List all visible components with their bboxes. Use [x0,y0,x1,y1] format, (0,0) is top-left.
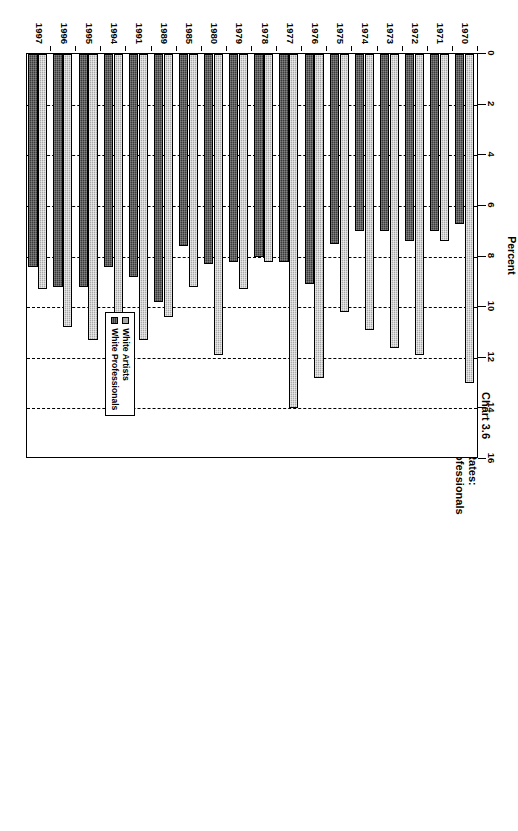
value-axis-tick [478,104,486,105]
bar-white-professionals [279,54,288,262]
value-axis-tick-label: 14 [486,402,497,413]
bar-white-professionals [28,54,37,267]
category-axis-label: 1997 [33,23,44,44]
value-axis: 0246810121416 [478,53,494,458]
bar-series-layer [27,54,477,457]
legend-label: White Professionals [109,328,120,410]
bar-white-professionals [204,54,213,264]
bar-white-artists [214,54,223,355]
bar-white-professionals [305,54,314,284]
bar-white-artists [289,54,298,408]
value-axis-tick [478,154,486,155]
bar-white-artists [164,54,173,317]
category-axis-tick [452,46,453,51]
value-axis-tick-label: 0 [486,50,497,55]
category-axis-tick [326,46,327,51]
category-axis: 1970197119721973197419751976197719781979… [26,0,478,51]
bar-white-artists [314,54,323,378]
category-axis-label: 1975 [334,23,345,44]
bar-white-artists [88,54,97,340]
value-axis-tick [478,306,486,307]
bar-white-professionals [129,54,138,277]
category-axis-label: 1996 [58,23,69,44]
bar-white-professionals [355,54,364,231]
legend-label: White Artists [120,328,131,381]
category-axis-tick [100,46,101,51]
legend-swatch-icon [122,317,129,324]
category-axis-label: 1977 [284,23,295,44]
chart-page: Percent Chart 3.6 Multiple Jobholding Ra… [0,0,518,831]
value-axis-tick [478,53,486,54]
category-axis-tick [201,46,202,51]
category-axis-tick [377,46,378,51]
category-axis-label: 1970 [460,23,471,44]
bar-white-artists [365,54,374,330]
category-axis-label: 1978 [259,23,270,44]
legend-item: White Professionals [109,317,120,410]
category-axis-tick [176,46,177,51]
category-axis-label: 1973 [385,23,396,44]
category-axis-label: 1972 [410,23,421,44]
value-axis-tick [478,407,486,408]
value-axis-tick [478,357,486,358]
bar-white-professionals [79,54,88,287]
value-axis-tick-label: 12 [486,351,497,362]
bar-white-professionals [229,54,238,262]
bar-white-artists [415,54,424,355]
bar-white-professionals [330,54,339,244]
bar-white-professionals [254,54,263,257]
bar-white-artists [189,54,198,287]
bar-white-professionals [154,54,163,302]
bar-white-professionals [455,54,464,224]
bar-white-professionals [53,54,62,287]
category-axis-tick [351,46,352,51]
value-axis-tick-label: 4 [486,152,497,157]
bar-white-artists [440,54,449,241]
category-axis-label: 1979 [234,23,245,44]
value-axis-tick [478,458,486,459]
category-axis-label: 1985 [184,23,195,44]
category-axis-label: 1991 [134,23,145,44]
category-axis-label: 1976 [309,23,320,44]
bar-white-artists [340,54,349,312]
bar-white-artists [38,54,47,289]
value-axis-tick-label: 6 [486,202,497,207]
category-axis-tick [75,46,76,51]
category-axis-label: 1974 [360,23,371,44]
bar-white-artists [114,54,123,317]
value-axis-tick [478,205,486,206]
bar-white-artists [264,54,273,262]
category-axis-tick [477,46,478,51]
category-axis-tick [125,46,126,51]
bar-white-artists [139,54,148,340]
category-axis-label: 1989 [159,23,170,44]
category-axis-tick [251,46,252,51]
bar-white-artists [465,54,474,383]
value-axis-tick-label: 10 [486,301,497,312]
bar-white-professionals [380,54,389,231]
bar-white-artists [63,54,72,327]
legend-item: White Artists [120,317,131,410]
chart-figure: Percent Chart 3.6 Multiple Jobholding Ra… [0,0,518,831]
category-axis-tick [301,46,302,51]
category-axis-label: 1980 [209,23,220,44]
category-axis-tick [276,46,277,51]
category-axis-tick [151,46,152,51]
chart-legend: White ArtistsWhite Professionals [105,312,135,416]
bar-white-professionals [405,54,414,241]
bar-white-professionals [179,54,188,246]
category-axis-tick [226,46,227,51]
value-axis-title: Percent [506,53,518,458]
category-axis-label: 1994 [108,23,119,44]
plot-area: White ArtistsWhite Professionals [26,53,478,458]
legend-swatch-icon [111,317,118,324]
category-axis-tick [402,46,403,51]
value-axis-tick-label: 8 [486,253,497,258]
category-axis-tick [427,46,428,51]
category-axis-label: 1995 [83,23,94,44]
bar-white-professionals [430,54,439,231]
bar-white-artists [390,54,399,348]
category-axis-label: 1971 [435,23,446,44]
bar-white-artists [239,54,248,289]
value-axis-tick [478,256,486,257]
